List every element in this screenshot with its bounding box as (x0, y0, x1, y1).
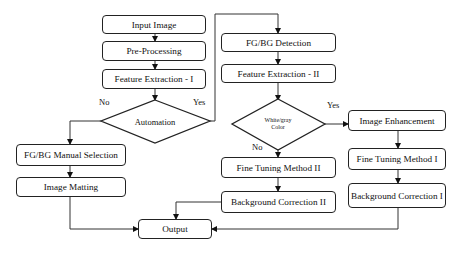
automation-no-label: No (99, 97, 109, 107)
edge-matting-to-output (70, 197, 138, 229)
node-fgbg-detection: FG/BG Detection (221, 33, 336, 52)
node-feature-extraction-1: Feature Extraction - I (102, 69, 206, 89)
color-yes-label: Yes (327, 100, 339, 110)
node-background-correction-1: Background Correction I (348, 183, 446, 208)
edge-automation-no (70, 121, 101, 144)
node-feature-extraction-2: Feature Extraction - II (221, 64, 336, 83)
node-fgbg-manual-selection: FG/BG Manual Selection (16, 144, 126, 166)
node-fine-tuning-2: Fine Tuning Method II (221, 157, 336, 178)
node-image-matting: Image Matting (16, 177, 126, 197)
edge-bgcorr2-to-output (176, 202, 221, 219)
color-no-label: No (252, 142, 262, 152)
node-output: Output (138, 219, 212, 239)
node-fine-tuning-1: Fine Tuning Method I (348, 148, 446, 170)
automation-yes-label: Yes (193, 97, 205, 107)
automation-label: Automation (135, 117, 176, 127)
node-image-enhancement: Image Enhancement (348, 110, 446, 131)
node-background-correction-2: Background Correction II (221, 191, 336, 213)
node-input-image: Input Image (102, 15, 206, 34)
white-gray-color-label: White/gray Color (258, 117, 298, 131)
node-pre-processing: Pre-Processing (102, 41, 206, 61)
